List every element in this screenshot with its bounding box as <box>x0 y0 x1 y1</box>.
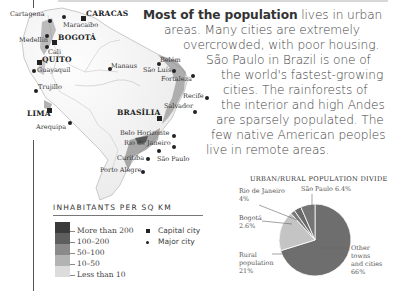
label-value: 2.6% <box>239 222 262 230</box>
capital-city-marker <box>47 108 52 113</box>
para-bold-lead: Most of the population <box>143 8 298 22</box>
label-text: and cities <box>351 260 382 268</box>
para-line-8: are sparsely populated. The <box>216 113 384 128</box>
capital-city-marker <box>37 60 42 65</box>
legend-label: 100–200 <box>77 238 109 246</box>
major-city-marker <box>68 121 72 125</box>
major-city-marker <box>62 15 66 19</box>
capital-city-key-label: Capital city <box>158 227 200 235</box>
major-city-marker <box>191 74 195 78</box>
major-city-marker <box>32 69 36 73</box>
major-city-marker <box>205 96 209 100</box>
label-text: Bogotá <box>239 214 262 222</box>
major-city-marker <box>45 45 49 49</box>
major-city-marker <box>146 157 150 161</box>
legend-label: 10–50 <box>77 260 100 268</box>
capital-label-bogota: BOGOTÁ <box>58 34 96 42</box>
major-city-key-label: Major city <box>158 238 195 246</box>
legend-title: INHABITANTS PER SQ KM <box>53 203 172 212</box>
para-line-10: live in remote areas. <box>206 143 329 158</box>
city-label-arequipa: Arequipa <box>36 124 66 131</box>
pie-label-bogota: Bogotá 2.6% <box>239 214 262 230</box>
city-label-curitiba: Curitiba <box>117 155 144 162</box>
para-line-3: overcrowded, with poor housing. <box>183 38 379 53</box>
capital-label-brasilia: BRASÍLIA <box>117 109 161 117</box>
para-line-9: few native American peoples <box>211 128 385 143</box>
swatch-50-100 <box>55 244 70 255</box>
label-text: Other <box>351 244 382 252</box>
para-line-6: cities. The rainforests of <box>223 83 367 98</box>
swatch-more-than-200 <box>55 222 70 233</box>
label-value: 66% <box>351 268 382 276</box>
legend-tick <box>70 253 75 254</box>
label-text: population <box>239 259 274 267</box>
city-label-fortaleza: Fortaleza <box>161 76 192 83</box>
city-label-salvador: Salvador <box>164 103 193 110</box>
legend-tick <box>70 264 75 265</box>
swatch-less-than-10 <box>55 266 70 277</box>
pie-label-sao-paulo: São Paulo 6.4% <box>301 185 351 193</box>
major-city-marker <box>172 134 176 138</box>
major-city-marker <box>157 149 161 153</box>
pie-label-rio: Rio de Janeiro 4% <box>239 187 285 203</box>
label-text: Rio de Janeiro <box>239 187 285 195</box>
city-label-medellin: Medellín <box>19 37 48 44</box>
major-city-marker <box>48 19 52 23</box>
city-label-belem: Belém <box>160 57 181 64</box>
capital-city-key-icon <box>146 229 150 233</box>
pie-label-other: Other towns and cities 66% <box>351 244 382 276</box>
city-label-sao-luis: São Luís <box>143 67 171 74</box>
para-line-5: the world's fastest-growing <box>221 68 383 83</box>
swatch-100-200 <box>55 233 70 244</box>
major-city-marker <box>193 110 197 114</box>
city-label-sao-paulo: São Paulo <box>157 156 189 163</box>
para-line-7: the interior and high Andes <box>221 98 385 113</box>
city-label-porto-alegre: Porto Alegre <box>100 167 141 174</box>
pie-label-rural: Rural population 21% <box>239 251 274 275</box>
major-city-marker <box>45 34 49 38</box>
label-text: Rural <box>239 251 274 259</box>
capital-city-marker <box>52 40 57 45</box>
major-city-marker <box>141 170 145 174</box>
major-city-marker <box>172 145 176 149</box>
legend-tick <box>70 275 75 276</box>
city-label-maracaibo: Maracaibo <box>63 22 98 29</box>
para-line-2: areas. Many cities are extremely <box>164 23 360 38</box>
label-value: 4% <box>239 195 285 203</box>
para-text: lives in urban <box>298 8 383 22</box>
capital-label-caracas: CARACAS <box>86 10 128 18</box>
major-city-marker <box>172 69 176 73</box>
city-label-guayaquil: Guayaquil <box>37 67 70 74</box>
legend-label: 50–100 <box>77 249 105 257</box>
capital-label-quito: QUITO <box>42 56 72 64</box>
city-label-rio-de-janeiro: Rio de Janeiro <box>124 140 171 147</box>
city-label-cartagena: Cartagena <box>10 11 45 18</box>
para-line-4: São Paulo in Brazil is one of <box>206 53 371 68</box>
major-city-key-icon <box>146 241 149 244</box>
swatch-10-50 <box>55 255 70 266</box>
city-label-belo-horizonte: Belo Horizonte <box>120 130 169 137</box>
city-label-manaus: Manaus <box>111 63 137 70</box>
major-city-marker <box>108 67 112 71</box>
legend-label: Less than 10 <box>77 271 126 279</box>
city-label-recife: Recife <box>183 93 204 100</box>
city-label-trujillo: Trujillo <box>38 84 62 91</box>
major-city-marker <box>34 89 38 93</box>
legend-tick <box>70 242 75 243</box>
para-line-1: Most of the population lives in urban <box>143 8 382 23</box>
capital-city-marker <box>157 116 162 121</box>
label-value: 21% <box>239 267 274 275</box>
legend-rule <box>53 215 203 216</box>
label-text: towns <box>351 252 382 260</box>
legend-label: More than 200 <box>77 227 133 235</box>
legend-tick <box>70 231 75 232</box>
